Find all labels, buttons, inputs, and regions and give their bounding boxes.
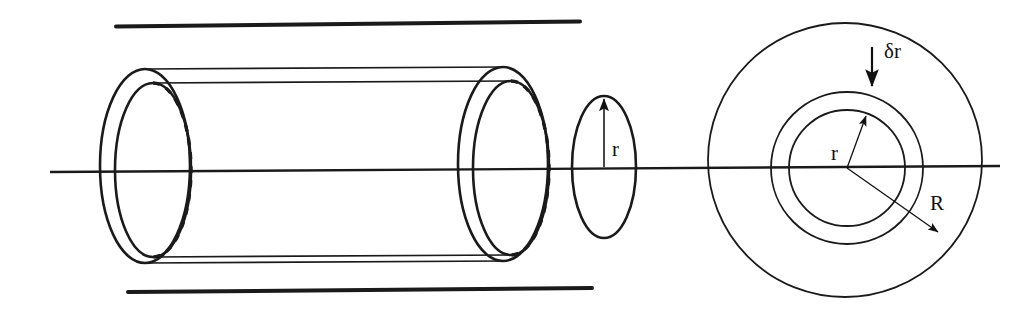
wall-top-line [116, 22, 580, 27]
radius-arrow-inner [847, 116, 866, 168]
pipe-outer-bottom-edge [145, 261, 503, 263]
radius-label-inner: r [831, 141, 838, 165]
radius-arrow-outer [847, 168, 938, 232]
pipe-inner-top-edge [153, 81, 511, 83]
right-end-outer-ellipse [458, 67, 548, 261]
pipe-outer-top-edge [145, 67, 503, 69]
pipe-inner-bottom-edge [153, 255, 511, 257]
cross-section-group: δr r R [708, 23, 982, 297]
outer-circle-R [708, 23, 982, 297]
radius-label-side: r [612, 137, 619, 161]
radius-label-outer: R [930, 191, 944, 215]
pipe-cross-section-diagram: r δr r R [0, 0, 1022, 309]
pipe-3d-group: r [100, 22, 636, 293]
left-end-outer-ellipse [100, 69, 190, 263]
thickness-label: δr [884, 39, 901, 63]
diagram-canvas: r δr r R [0, 0, 1022, 309]
wall-bottom-line [128, 288, 592, 292]
